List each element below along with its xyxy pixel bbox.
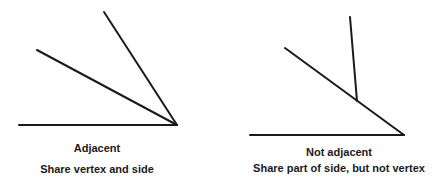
adjacent-title: Adjacent [74, 142, 120, 154]
adjacent-subtitle: Share vertex and side [40, 163, 154, 175]
non-adjacent-subtitle: Share part of side, but not vertex [253, 162, 425, 174]
non-adjacent-title: Not adjacent [306, 146, 372, 158]
non-adjacent-angles [250, 17, 404, 135]
adjacent-upper-ray [104, 12, 177, 125]
non-adjacent-slanted-ray [285, 48, 404, 135]
adjacent-shared-ray [37, 50, 177, 125]
adjacent-angles [19, 12, 177, 125]
angles-diagram [0, 0, 448, 181]
non-adjacent-short-ray [350, 17, 357, 101]
